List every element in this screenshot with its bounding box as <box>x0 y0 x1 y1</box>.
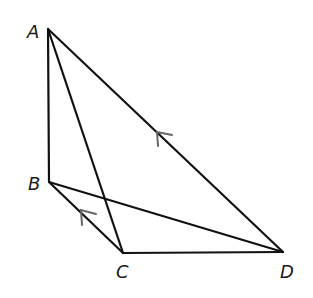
segment-ac <box>48 29 123 253</box>
segment-ad <box>48 29 283 252</box>
point-label-d: D <box>280 261 294 282</box>
segment-ab <box>48 29 49 182</box>
parallel-arrow-icon <box>81 210 96 225</box>
point-label-c: C <box>116 261 129 282</box>
geometry-diagram: A B C D <box>0 0 313 298</box>
point-label-a: A <box>26 21 39 42</box>
point-label-b: B <box>28 173 40 194</box>
segment-cd <box>123 252 283 253</box>
